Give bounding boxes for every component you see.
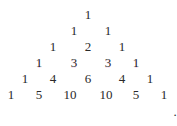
triangle-entry: 1 [119, 40, 126, 53]
triangle-entry: 4 [50, 72, 57, 85]
triangle-entry: 10 [64, 88, 77, 101]
triangle-entry: 1 [71, 24, 78, 37]
trailing-period: . [173, 104, 176, 120]
triangle-entry: 10 [100, 88, 113, 101]
triangle-entry: 1 [147, 72, 154, 85]
triangle-entry: 1 [161, 88, 168, 101]
triangle-entry: 1 [85, 8, 92, 21]
triangle-entry: 5 [133, 88, 140, 101]
triangle-entry: 4 [119, 72, 126, 85]
triangle-entry: 5 [36, 88, 43, 101]
triangle-entry: 1 [133, 56, 140, 69]
triangle-entry: 3 [71, 56, 78, 69]
triangle-entry: 1 [8, 88, 15, 101]
triangle-entry: 2 [85, 40, 92, 53]
triangle-entry: 1 [105, 24, 112, 37]
triangle-entry: 1 [22, 72, 29, 85]
triangle-entry: 1 [36, 56, 43, 69]
pascal-triangle: 11112113311464115101051 [0, 0, 177, 126]
triangle-entry: 1 [50, 40, 57, 53]
triangle-entry: 6 [85, 72, 92, 85]
triangle-entry: 3 [105, 56, 112, 69]
